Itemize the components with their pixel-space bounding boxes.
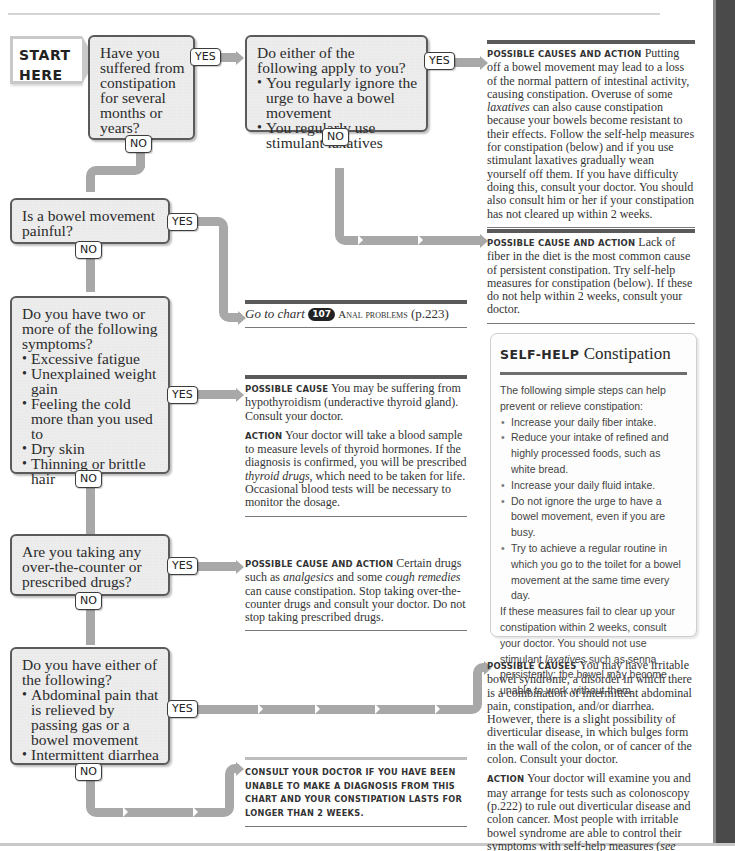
question-text: Do you have either of the following? [22,657,160,687]
answer-bar [245,375,467,379]
self-help-item: Increase your daily fluid intake. [500,478,687,494]
consult-text: Consult your doctor if you have been una… [245,766,467,820]
chevron-icon [315,704,320,714]
goto-title[interactable]: Anal problems [338,308,407,320]
bullet-item: Dry skin [22,441,160,456]
yes-badge[interactable]: YES [167,213,198,231]
connector-corner [457,686,482,714]
consult-doctor-note: Consult your doctor if you have been una… [245,757,467,827]
answer-bar [245,550,467,554]
answer-lead: Action [245,431,282,441]
yes-badge[interactable]: YES [190,48,221,66]
question-box-q1: Have you suffered from constipation for … [88,35,195,140]
start-label-line1: START [19,45,71,65]
answer-italic: thyroid drugs [245,469,310,483]
chart-number-badge: 107 [308,308,335,321]
connector-q5-no [86,610,95,645]
connector-q4-yes [197,390,237,399]
question-text: Is a bowel movement painful? [22,208,160,238]
connector-q3-no [86,258,95,292]
answer-italic: see [660,839,675,851]
bullet-item: You regularly ignore the urge to have a … [257,75,418,120]
answer-bar [245,300,467,304]
connector-q6-yes [197,705,468,714]
chevron-icon [375,704,380,714]
connector-segment [86,180,95,192]
no-badge[interactable]: NO [75,763,102,781]
no-badge[interactable]: NO [322,128,349,146]
connector-q4-no [86,487,95,534]
answer-lead: Possible cause and action [245,559,393,569]
self-help-outro: If these measures fail to clear up your … [500,604,687,699]
self-help-item: Reduce your intake of refined and highly… [500,430,687,477]
page-edge-tab [713,0,735,843]
no-badge[interactable]: NO [125,135,152,153]
answer-text: and some [334,570,386,584]
bullet-item: Excessive fatigue [22,351,160,366]
answer-italic: laxatives [487,100,530,114]
self-help-list: Increase your daily fiber intake. Reduce… [500,415,687,605]
answer-bar [487,40,695,44]
bullet-item: Intermittent diarrhea [22,747,160,762]
connector-corner [203,217,228,237]
chevron-icon [193,807,198,817]
question-text: Do you have two or more of the following… [22,306,160,351]
bullet-item: Abdominal pain that is relieved by passi… [22,687,160,747]
answer-lead: Possible cause and action [487,238,635,248]
no-badge[interactable]: NO [75,241,102,259]
self-help-box: SELF-HELP Constipation The following sim… [490,333,697,637]
answer-a3: Possible cause You may be suffering from… [245,375,467,517]
question-box-q5: Are you taking any over-the-counter or p… [10,534,170,596]
answer-rule [245,516,467,517]
self-help-item: Do not ignore the urge to have a bowel m… [500,494,687,541]
answer-rule [487,227,695,228]
arrow-icon [236,560,244,574]
answer-italic: cough remedies [385,570,460,584]
yes-badge[interactable]: YES [424,52,455,70]
answer-a2: Possible cause and action Lack of fiber … [487,229,695,324]
answer-rule [245,327,467,328]
no-badge[interactable]: NO [75,592,102,610]
question-text: Have you suffered from constipation for … [100,45,185,135]
arrow-icon [236,51,244,65]
question-box-q4: Do you have two or more of the following… [10,296,170,474]
answer-rule [245,630,467,631]
goto-prefix: Go to chart [245,306,305,321]
chevron-icon [123,807,128,817]
top-rule [8,13,660,15]
question-box-q6: Do you have either of the following? Abd… [10,647,170,765]
answer-rule [487,323,695,324]
yes-badge[interactable]: YES [167,557,198,575]
chevron-icon [435,704,440,714]
question-text: Do either of the following apply to you? [257,45,418,75]
no-badge[interactable]: NO [75,470,102,488]
self-help-heading: Constipation [584,344,671,363]
self-help-item: Try to achieve a regular routine in whic… [500,541,687,604]
answer-lead: Possible cause [245,384,328,394]
goto-chart-107[interactable]: Go to chart 107 Anal problems (p.223) [245,300,467,328]
answer-a4: Possible cause and action Certain drugs … [245,550,467,631]
chevron-icon [418,235,423,245]
answer-text: can cause constipation. Stop taking over… [245,584,466,625]
answer-bar [245,757,467,760]
connector-q2-yes [453,58,481,67]
connector-segment [219,235,228,313]
self-help-intro: The following simple steps can help prev… [500,383,687,415]
answer-bar [487,229,695,233]
answer-rule [245,826,467,827]
arrow-icon [236,762,244,776]
yes-badge[interactable]: YES [167,386,198,404]
answer-lead: Possible causes and action [487,49,642,59]
self-help-rule [500,372,687,375]
yes-badge[interactable]: YES [167,700,198,718]
bullet-item: Unexplained weight gain [22,366,160,396]
question-text: Are you taking any over-the-counter or p… [22,544,160,589]
answer-lead: Action [487,774,524,784]
question-box-q3: Is a bowel movement painful? [10,198,170,244]
start-here-marker: START HERE [10,36,82,84]
question-bullets: Abdominal pain that is relieved by passi… [22,687,160,762]
answer-text: can also cause constipation because your… [487,100,694,220]
self-help-title: SELF-HELP Constipation [500,344,687,364]
question-box-q2: Do either of the following apply to you?… [245,35,428,132]
bullet-item: Feeling the cold more than you used to [22,396,160,441]
